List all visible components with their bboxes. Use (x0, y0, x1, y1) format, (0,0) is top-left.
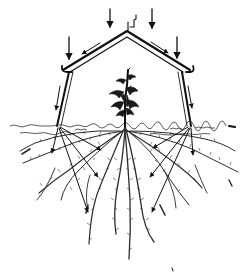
plant (109, 68, 139, 128)
plant-leaf (111, 102, 124, 110)
plant-leaf (116, 79, 126, 84)
plant-leaf (116, 110, 125, 117)
vent-icon (128, 15, 136, 31)
rainwater-harvesting-illustration (0, 0, 250, 280)
roof (62, 15, 194, 72)
soil-arrows-left (52, 127, 101, 212)
plant-leaf (126, 87, 138, 95)
arrow-down-icon (56, 86, 60, 110)
arrow-icon (191, 128, 193, 155)
arrow-icon (60, 127, 101, 150)
illustration-svg (0, 0, 250, 280)
arrow-down-icon (188, 86, 192, 108)
right-post (182, 72, 191, 126)
soil-arrows-right (150, 127, 193, 212)
